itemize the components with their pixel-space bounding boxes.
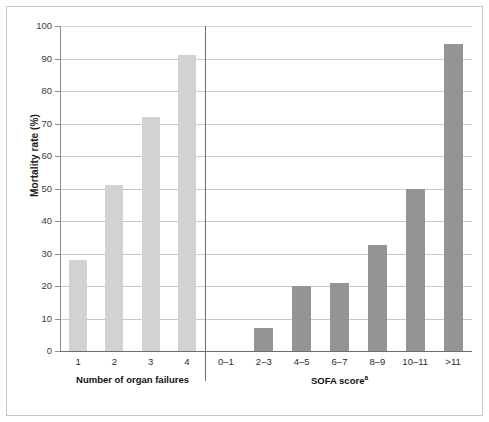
- bar: [178, 55, 196, 351]
- panel-divider: [205, 26, 206, 381]
- footnote-marker: a: [364, 374, 368, 381]
- bar: [292, 286, 311, 351]
- bar: [69, 260, 87, 351]
- bar: [368, 245, 387, 351]
- bar: [142, 117, 160, 351]
- bar: [406, 189, 425, 352]
- y-axis-tick-label: 30: [22, 249, 52, 259]
- y-axis-tick: [55, 254, 60, 255]
- x-axis-line: [60, 351, 472, 352]
- y-axis-tick: [55, 91, 60, 92]
- y-axis-tick-label: 50: [22, 184, 52, 194]
- y-axis-tick-label: 20: [22, 281, 52, 291]
- y-axis-tick-label: 10: [22, 314, 52, 324]
- plot-area: [60, 26, 472, 351]
- y-axis-tick-label: 40: [22, 216, 52, 226]
- bar: [330, 283, 349, 351]
- y-axis-tick: [55, 319, 60, 320]
- x-axis-group-title: SOFA scorea: [250, 374, 430, 386]
- y-axis-tick: [55, 26, 60, 27]
- bar: [444, 44, 463, 351]
- y-axis-tick: [55, 156, 60, 157]
- figure-root: Mortality rate (%) 010203040506070809010…: [0, 0, 489, 422]
- bar: [254, 328, 273, 351]
- y-axis-tick: [55, 189, 60, 190]
- y-axis-tick-label: 90: [22, 54, 52, 64]
- bar: [105, 185, 123, 351]
- y-axis-tick-label: 70: [22, 119, 52, 129]
- y-axis-tick-label: 100: [22, 21, 52, 31]
- bars-layer: [60, 26, 472, 351]
- y-axis-tick-labels: 0102030405060708090100: [18, 0, 52, 422]
- y-axis-tick: [55, 221, 60, 222]
- y-axis-tick: [55, 286, 60, 287]
- y-axis-tick: [55, 124, 60, 125]
- y-axis-tick-label: 60: [22, 151, 52, 161]
- y-axis-tick: [55, 59, 60, 60]
- y-axis-tick-label: 0: [22, 346, 52, 356]
- y-axis-tick: [55, 351, 60, 352]
- y-axis-tick-label: 80: [22, 86, 52, 96]
- x-axis-group-title: Number of organ failures: [43, 374, 223, 385]
- x-axis-tick-label: >11: [423, 356, 483, 368]
